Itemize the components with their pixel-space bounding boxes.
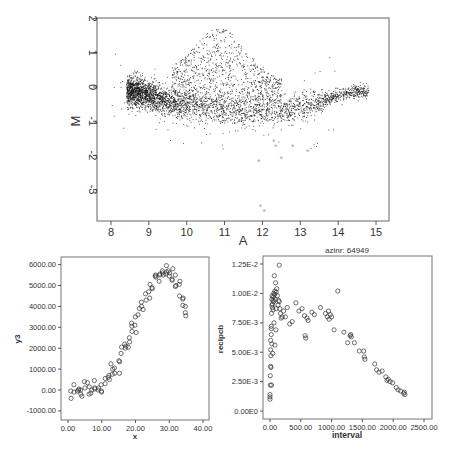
ma-plot-outlier-stars: ******** bbox=[257, 137, 310, 217]
svg-text:2: 2 bbox=[87, 16, 99, 22]
svg-text:-1: -1 bbox=[87, 116, 99, 126]
svg-text:15: 15 bbox=[370, 226, 382, 238]
svg-text:11: 11 bbox=[219, 226, 230, 238]
recipcb-plot-x-label: interval bbox=[332, 430, 362, 440]
svg-text:30.00: 30.00 bbox=[160, 424, 179, 433]
recipcb-vs-interval-plot: azinr: 64949 0.00500.001000.001500.00200… bbox=[216, 246, 438, 440]
svg-text:2500.00: 2500.00 bbox=[410, 423, 437, 432]
ma-plot-x-label: A bbox=[239, 233, 248, 248]
svg-text:40.00: 40.00 bbox=[194, 424, 213, 433]
y3-plot-points bbox=[69, 264, 188, 401]
svg-text:-2: -2 bbox=[87, 151, 99, 161]
svg-text:14: 14 bbox=[332, 226, 344, 238]
y3-plot-x-label: x bbox=[133, 432, 138, 441]
recipcb-plot-y-label: recipcb bbox=[216, 325, 225, 354]
svg-text:-3: -3 bbox=[87, 185, 99, 195]
svg-text:10: 10 bbox=[181, 226, 193, 238]
ma-plot: ******** 89101112131415 210-1-2-3 A M bbox=[68, 16, 389, 248]
svg-text:0.00: 0.00 bbox=[41, 386, 56, 395]
svg-text:1: 1 bbox=[87, 50, 99, 56]
svg-text:5000.00: 5000.00 bbox=[29, 281, 56, 290]
svg-text:*: * bbox=[306, 147, 310, 157]
svg-text:2.50E-3: 2.50E-3 bbox=[232, 377, 258, 386]
ma-plot-y-label: M bbox=[68, 116, 83, 127]
svg-text:3000.00: 3000.00 bbox=[29, 323, 56, 332]
svg-text:*: * bbox=[280, 154, 284, 164]
svg-text:9: 9 bbox=[146, 226, 152, 238]
ma-plot-frame bbox=[97, 18, 389, 221]
y3-vs-x-plot: 0.0010.0020.0030.0040.00 6000.005000.004… bbox=[13, 257, 212, 441]
y3-plot-y-axis: 6000.005000.004000.003000.002000.001000.… bbox=[26, 260, 61, 415]
svg-text:4000.00: 4000.00 bbox=[29, 302, 56, 311]
svg-text:7.50E-3: 7.50E-3 bbox=[232, 318, 258, 327]
svg-text:0.00: 0.00 bbox=[263, 423, 278, 432]
svg-text:*: * bbox=[274, 142, 278, 152]
svg-text:2000.00: 2000.00 bbox=[29, 344, 56, 353]
svg-text:13: 13 bbox=[294, 226, 306, 238]
svg-text:500.00: 500.00 bbox=[289, 423, 312, 432]
recipcb-plot-points bbox=[268, 263, 407, 401]
svg-text:5.00E-3: 5.00E-3 bbox=[232, 348, 258, 357]
figure: ******** 89101112131415 210-1-2-3 A M 0.… bbox=[0, 0, 452, 453]
svg-text:12: 12 bbox=[256, 226, 268, 238]
ma-plot-points bbox=[112, 29, 369, 149]
svg-text:1.00E-2: 1.00E-2 bbox=[232, 289, 258, 298]
recipcb-plot-frame bbox=[263, 256, 432, 419]
svg-text:1.25E-2: 1.25E-2 bbox=[232, 260, 258, 269]
svg-text:8: 8 bbox=[108, 226, 114, 238]
svg-text:0: 0 bbox=[87, 84, 99, 90]
svg-text:*: * bbox=[257, 157, 261, 167]
svg-text:*: * bbox=[263, 207, 267, 217]
recipcb-plot-y-axis: 1.25E-21.00E-27.50E-35.00E-32.50E-30.00E… bbox=[232, 260, 263, 416]
y3-plot-y-label: y3 bbox=[13, 334, 22, 343]
svg-text:6000.00: 6000.00 bbox=[29, 260, 56, 269]
svg-text:*: * bbox=[291, 142, 295, 152]
svg-text:-1000.00: -1000.00 bbox=[26, 406, 56, 415]
svg-text:2000.00: 2000.00 bbox=[380, 423, 407, 432]
svg-text:1000.00: 1000.00 bbox=[29, 365, 56, 374]
svg-text:0.00E0: 0.00E0 bbox=[234, 407, 258, 416]
recipcb-plot-title: azinr: 64949 bbox=[325, 246, 370, 255]
svg-text:0.00: 0.00 bbox=[61, 424, 76, 433]
svg-text:10.00: 10.00 bbox=[92, 424, 111, 433]
y3-plot-frame bbox=[61, 257, 209, 420]
